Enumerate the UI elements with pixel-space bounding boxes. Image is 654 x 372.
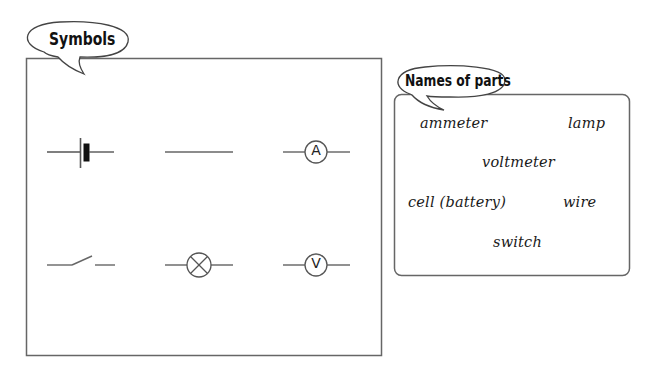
- symbols-panel-box: [27, 59, 382, 356]
- part-name-switch: switch: [493, 234, 542, 250]
- part-name-wire: wire: [563, 194, 596, 210]
- ammeter-letter: A: [309, 142, 323, 158]
- names-panel-title: Names of parts: [405, 72, 511, 90]
- symbols-title: Symbols: [49, 29, 115, 49]
- part-name-cell-battery: cell (battery): [408, 194, 506, 210]
- voltmeter-letter: V: [309, 255, 323, 271]
- lamp-symbol: [165, 253, 233, 277]
- circuit-symbols-worksheet: Symbols Names of parts A V ammeter lamp …: [0, 0, 654, 372]
- cell-battery-symbol: [47, 138, 114, 168]
- part-name-lamp: lamp: [568, 115, 605, 131]
- part-name-voltmeter: voltmeter: [482, 154, 555, 170]
- part-name-ammeter: ammeter: [420, 115, 487, 131]
- diagram-canvas: [0, 0, 654, 372]
- open-switch-symbol: [47, 256, 115, 265]
